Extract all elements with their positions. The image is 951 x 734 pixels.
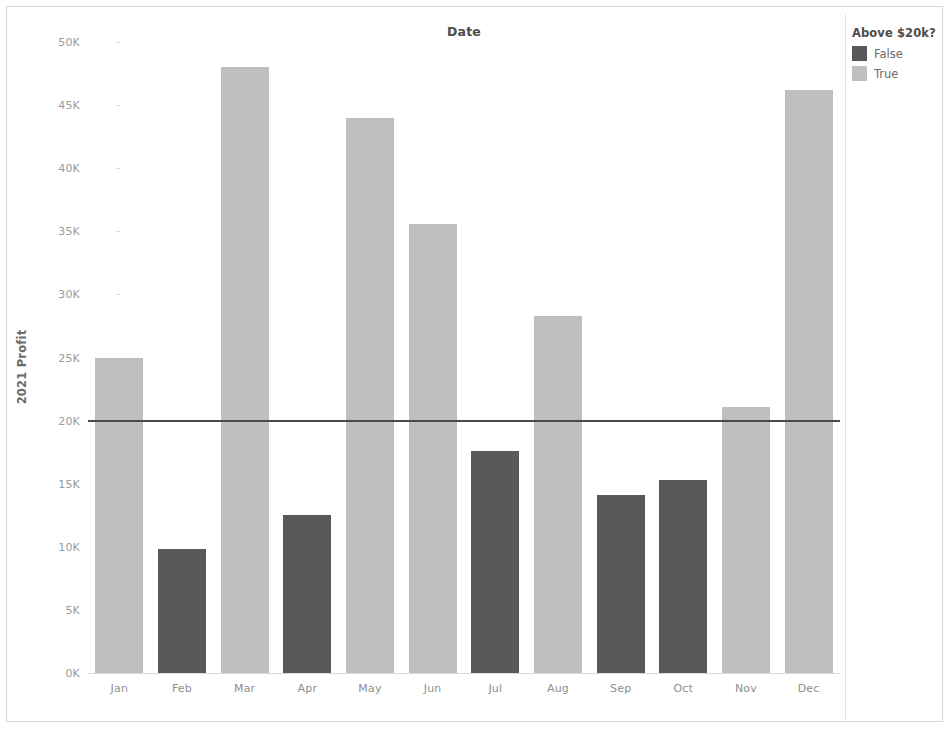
- bar-dec[interactable]: [785, 90, 833, 673]
- x-axis-line: [88, 673, 840, 674]
- bar-nov[interactable]: [722, 407, 770, 673]
- legend-divider: [845, 14, 846, 720]
- x-axis-tick-sep: Sep: [589, 682, 652, 695]
- bar-oct[interactable]: [659, 480, 707, 673]
- y-axis-tick-15K: 15K: [58, 477, 80, 490]
- x-axis-tick-apr: Apr: [276, 682, 339, 695]
- legend-swatch-true: [852, 66, 867, 81]
- y-axis-tick-0K: 0K: [65, 667, 80, 680]
- y-axis-tick-labels: 0K5K10K15K20K25K30K35K40K45K50K: [36, 42, 80, 673]
- x-axis-tick-nov: Nov: [715, 682, 778, 695]
- legend-title: Above $20k?: [852, 26, 944, 40]
- x-axis-tick-oct: Oct: [652, 682, 715, 695]
- x-axis-tick-jan: Jan: [88, 682, 151, 695]
- y-axis-title: 2021 Profit: [10, 0, 34, 734]
- y-axis-tick-40K: 40K: [58, 162, 80, 175]
- legend-swatch-false: [852, 46, 867, 61]
- legend: Above $20k? FalseTrue: [852, 26, 944, 86]
- bar-jun[interactable]: [409, 224, 457, 673]
- bar-jan[interactable]: [95, 358, 143, 674]
- chart-viz-container: Date 2021 Profit 0K5K10K15K20K25K30K35K4…: [0, 0, 951, 734]
- plot-area: [88, 42, 840, 673]
- x-axis-tick-dec: Dec: [777, 682, 840, 695]
- x-axis-tick-jul: Jul: [464, 682, 527, 695]
- legend-label-true: True: [874, 67, 898, 81]
- y-axis-tick-10K: 10K: [58, 540, 80, 553]
- bar-jul[interactable]: [471, 451, 519, 673]
- y-axis-tick-25K: 25K: [58, 351, 80, 364]
- y-axis-tick-50K: 50K: [58, 36, 80, 49]
- bar-may[interactable]: [346, 118, 394, 673]
- x-axis-tick-feb: Feb: [151, 682, 214, 695]
- legend-items: FalseTrue: [852, 46, 944, 81]
- legend-item-false[interactable]: False: [852, 46, 944, 61]
- legend-label-false: False: [874, 47, 903, 61]
- bar-mar[interactable]: [221, 67, 269, 673]
- x-axis-tick-may: May: [339, 682, 402, 695]
- y-axis-tick-20K: 20K: [58, 414, 80, 427]
- x-axis-tick-aug: Aug: [527, 682, 590, 695]
- reference-line[interactable]: [88, 420, 840, 422]
- bar-sep[interactable]: [597, 495, 645, 673]
- y-axis-tick-45K: 45K: [58, 99, 80, 112]
- y-axis-tick-35K: 35K: [58, 225, 80, 238]
- x-axis-tick-mar: Mar: [213, 682, 276, 695]
- bar-aug[interactable]: [534, 316, 582, 673]
- y-axis-tick-30K: 30K: [58, 288, 80, 301]
- chart-title: Date: [88, 24, 840, 39]
- legend-item-true[interactable]: True: [852, 66, 944, 81]
- bar-feb[interactable]: [158, 549, 206, 673]
- y-axis-title-label: 2021 Profit: [15, 330, 29, 405]
- x-axis-tick-jun: Jun: [401, 682, 464, 695]
- bar-apr[interactable]: [283, 515, 331, 673]
- y-axis-tick-5K: 5K: [65, 603, 80, 616]
